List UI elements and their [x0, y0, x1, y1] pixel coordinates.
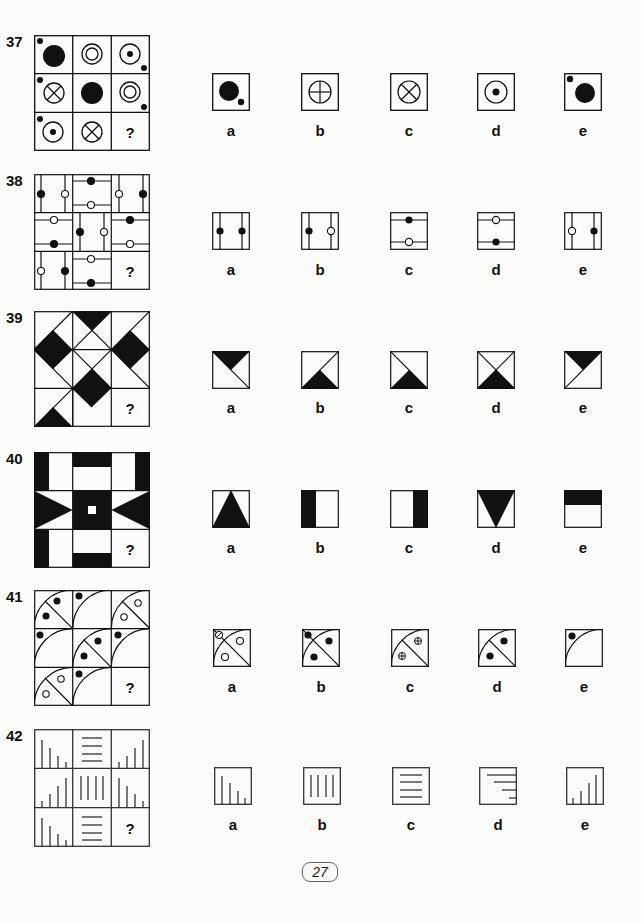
option-37-b[interactable]	[301, 73, 339, 111]
option-label: d	[483, 816, 513, 833]
option-label: c	[396, 816, 426, 833]
question-number-39: 39	[6, 309, 23, 326]
option-37-a[interactable]	[212, 73, 250, 111]
puzzle-grid-40: ?	[34, 452, 150, 568]
question-number-37: 37	[6, 33, 23, 50]
option-40-d[interactable]	[477, 490, 515, 528]
option-39-c[interactable]	[390, 351, 428, 389]
question-number-41: 41	[6, 588, 23, 605]
option-label: d	[481, 261, 511, 278]
option-label: e	[569, 678, 599, 695]
missing-mark: ?	[125, 263, 134, 280]
option-label: e	[568, 399, 598, 416]
option-39-e[interactable]	[564, 351, 602, 389]
option-label: a	[216, 539, 246, 556]
puzzle-grid-37: ?	[34, 35, 150, 151]
option-37-d[interactable]	[477, 73, 515, 111]
option-label: b	[305, 399, 335, 416]
option-42-c[interactable]	[392, 767, 430, 805]
option-40-e[interactable]	[564, 490, 602, 528]
page-number: 27	[302, 862, 338, 882]
option-label: e	[568, 122, 598, 139]
puzzle-grid-42: ?	[34, 729, 150, 845]
option-37-e[interactable]	[564, 73, 602, 111]
missing-mark: ?	[125, 124, 134, 141]
option-label: c	[394, 122, 424, 139]
question-number-42: 42	[6, 727, 23, 744]
option-label: e	[568, 539, 598, 556]
puzzle-grid-38: ?	[34, 174, 150, 290]
missing-mark: ?	[125, 679, 134, 696]
option-label: b	[305, 539, 335, 556]
option-label: a	[218, 816, 248, 833]
option-label: d	[481, 122, 511, 139]
option-41-d[interactable]	[478, 629, 516, 667]
option-label: a	[216, 399, 246, 416]
option-38-b[interactable]	[301, 212, 339, 250]
option-label: c	[394, 261, 424, 278]
option-42-a[interactable]	[214, 767, 252, 805]
option-label: e	[570, 816, 600, 833]
question-number-38: 38	[6, 172, 23, 189]
option-39-b[interactable]	[301, 351, 339, 389]
option-39-a[interactable]	[212, 351, 250, 389]
option-41-b[interactable]	[302, 629, 340, 667]
option-label: c	[394, 399, 424, 416]
option-38-a[interactable]	[212, 212, 250, 250]
missing-mark: ?	[125, 541, 134, 558]
option-42-d[interactable]	[479, 767, 517, 805]
option-40-c[interactable]	[390, 490, 428, 528]
missing-mark: ?	[125, 820, 134, 837]
option-39-d[interactable]	[477, 351, 515, 389]
option-38-c[interactable]	[390, 212, 428, 250]
option-40-b[interactable]	[301, 490, 339, 528]
option-label: d	[481, 539, 511, 556]
option-40-a[interactable]	[212, 490, 250, 528]
puzzle-grid-41: ?	[34, 590, 150, 706]
puzzle-grid-39: ?	[34, 311, 150, 427]
option-label: c	[394, 539, 424, 556]
option-label: b	[305, 122, 335, 139]
option-42-b[interactable]	[303, 767, 341, 805]
question-number-40: 40	[6, 450, 23, 467]
option-38-d[interactable]	[477, 212, 515, 250]
option-42-e[interactable]	[566, 767, 604, 805]
option-label: d	[481, 399, 511, 416]
option-41-a[interactable]	[213, 629, 251, 667]
option-label: a	[216, 261, 246, 278]
option-label: a	[217, 678, 247, 695]
option-label: a	[216, 122, 246, 139]
option-38-e[interactable]	[564, 212, 602, 250]
option-label: e	[568, 261, 598, 278]
option-41-e[interactable]	[565, 629, 603, 667]
option-label: d	[482, 678, 512, 695]
missing-mark: ?	[125, 400, 134, 417]
option-label: b	[305, 261, 335, 278]
option-label: c	[395, 678, 425, 695]
option-37-c[interactable]	[390, 73, 428, 111]
option-label: b	[306, 678, 336, 695]
option-41-c[interactable]	[391, 629, 429, 667]
option-label: b	[307, 816, 337, 833]
